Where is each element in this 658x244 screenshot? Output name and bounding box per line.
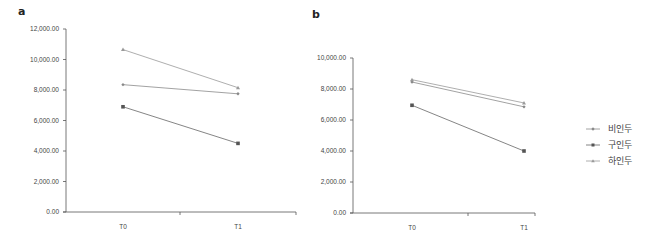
legend-item-nasopharynx: 비인두 [586, 124, 632, 134]
y-tick-label: 4,000.00 [321, 147, 347, 154]
chart-b: 0.002,000.004,000.006,000.008,000.0010,0… [317, 54, 535, 231]
square-marker-icon [121, 105, 125, 109]
legend-label: 구인두 [608, 140, 632, 150]
square-marker-icon [592, 144, 595, 147]
panel-label-a: a [18, 5, 25, 18]
square-marker-icon [236, 142, 240, 146]
legend: 비인두 구인두 하인두 [586, 124, 632, 166]
y-tick-label: 2,000.00 [321, 178, 347, 185]
triangle-marker-icon [410, 78, 414, 82]
x-tick-label: T0 [119, 223, 127, 230]
triangle-marker-icon [121, 48, 125, 52]
y-tick-label: 0.00 [333, 209, 346, 216]
series-line [412, 80, 524, 103]
panel-label-b: b [312, 8, 320, 21]
series-line [412, 82, 524, 107]
series-line [123, 107, 238, 144]
legend-item-oropharynx: 구인두 [586, 140, 632, 150]
series-line [412, 105, 524, 151]
chart-figure: a b 0.002,000.004,000.006,000.008,000.00… [0, 0, 658, 244]
diamond-marker-icon [522, 105, 525, 108]
y-tick-label: 6,000.00 [34, 117, 60, 124]
legend-label: 하인두 [608, 156, 632, 166]
x-tick-label: T0 [408, 224, 416, 231]
y-tick-label: 8,000.00 [321, 85, 347, 92]
x-tick-label: T1 [520, 224, 528, 231]
series-line [123, 50, 238, 88]
square-marker-icon [522, 149, 526, 153]
diamond-marker-icon [236, 92, 239, 95]
legend-item-hypopharynx: 하인두 [586, 156, 632, 166]
y-tick-label: 10,000.00 [30, 56, 59, 63]
square-marker-icon [410, 103, 414, 107]
x-tick-label: T1 [234, 223, 242, 230]
y-tick-label: 0.00 [46, 208, 59, 215]
diamond-marker-icon [591, 127, 594, 130]
y-tick-label: 2,000.00 [34, 178, 60, 185]
y-tick-label: 6,000.00 [321, 116, 347, 123]
legend-label: 비인두 [608, 124, 632, 134]
diamond-marker-icon [121, 83, 124, 86]
y-tick-label: 12,000.00 [30, 25, 59, 32]
y-tick-label: 8,000.00 [34, 86, 60, 93]
series-line [123, 85, 238, 94]
chart-a: 0.002,000.004,000.006,000.008,000.0010,0… [30, 25, 296, 230]
y-tick-label: 10,000.00 [317, 54, 346, 61]
y-tick-label: 4,000.00 [34, 147, 60, 154]
